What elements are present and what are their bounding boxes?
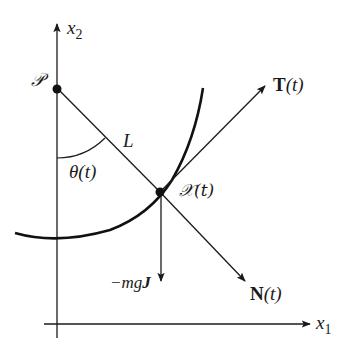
tangent-vector-arrow — [160, 86, 265, 192]
constraint-curve — [15, 88, 203, 238]
length-label: L — [123, 131, 134, 150]
gravity-label: −mgJ — [110, 274, 151, 291]
x2-axis-label: x2 — [67, 18, 82, 37]
normal-label: N(t) — [250, 284, 282, 303]
tangent-vec: T — [273, 74, 286, 95]
normal-arg: (t) — [264, 283, 282, 304]
tangent-label: T(t) — [273, 75, 304, 94]
position-label: 𝒳(t) — [179, 182, 214, 199]
pivot-point — [53, 85, 62, 94]
angle-arc — [57, 138, 105, 158]
x1-subscript: 1 — [324, 322, 331, 337]
x1-axis-label: x1 — [316, 313, 331, 332]
mass-point — [156, 188, 165, 197]
gravity-prefix: −mg — [110, 273, 142, 292]
diagram-canvas: x2 x1 𝒫 L θ(t) 𝒳(t) T(t) N(t) −mgJ — [0, 0, 356, 353]
angle-label: θ(t) — [69, 162, 96, 181]
normal-vec: N — [250, 283, 264, 304]
tangent-arg: (t) — [286, 74, 304, 95]
pivot-label: 𝒫 — [31, 71, 44, 89]
x2-subscript: 2 — [75, 27, 82, 42]
normal-vector-arrow — [160, 192, 245, 281]
gravity-vec: J — [142, 273, 151, 292]
diagram-graphics — [0, 0, 356, 353]
